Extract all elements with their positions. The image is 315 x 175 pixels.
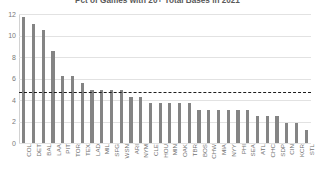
bar (246, 110, 249, 143)
x-tick-label: CHW (211, 144, 217, 174)
x-tick-label: NYM (143, 144, 149, 174)
x-tick-label-text: TOR (75, 144, 81, 157)
x-tick-label-text: STL (309, 144, 315, 155)
x-tick-label: DET (36, 144, 42, 174)
x-tick-label: CHC (270, 144, 276, 174)
x-tick-label-text: BAL (46, 144, 52, 156)
x-tick-label: PIT (65, 144, 71, 174)
x-tick-label: TEX (85, 144, 91, 174)
x-tick-label: MIL (104, 144, 110, 174)
bar-series (19, 14, 311, 143)
x-tick-label: COL (26, 144, 32, 174)
x-tick-label-text: DET (36, 144, 42, 156)
x-tick-label: BOS (202, 144, 208, 174)
x-tick-label-text: SFG (114, 144, 120, 157)
chart-title: Pct of Games with 20+ Total Bases in 202… (0, 0, 315, 5)
x-tick-label: SDP (280, 144, 286, 174)
bar (178, 103, 181, 143)
league-average-line (19, 92, 311, 93)
x-tick-label-text: CHW (211, 144, 217, 159)
x-tick-label-text: TEX (85, 144, 91, 156)
bar (149, 103, 152, 143)
x-tick-label-text: NYM (143, 144, 149, 158)
bar (266, 116, 269, 143)
x-tick-label-text: BOS (202, 144, 208, 157)
x-tick-label: ATL (260, 144, 266, 174)
x-tick-label: KCR (299, 144, 305, 174)
bar (61, 76, 64, 143)
x-tick-label: HOU (163, 144, 169, 174)
bar (285, 123, 288, 143)
bar (110, 90, 113, 143)
x-tick-label-text: CIN (289, 144, 295, 155)
x-tick-label: OAK (182, 144, 188, 174)
bar (100, 90, 103, 143)
x-tick-label-text: MIA (221, 144, 227, 155)
x-tick-label: TBR (192, 144, 198, 174)
x-tick-label: MIN (172, 144, 178, 174)
y-tick-label: 4 (2, 97, 16, 104)
x-tick-label-text: WSN (124, 144, 130, 158)
x-tick-label-text: TBR (192, 144, 198, 156)
x-tick-label: PHI (241, 144, 247, 174)
y-tick-label: 6 (2, 75, 16, 82)
x-tick-label-text: CLE (153, 144, 159, 156)
bar (256, 116, 259, 143)
x-tick-label-text: LAD (95, 144, 101, 156)
bar (129, 97, 132, 143)
x-tick-label-text: CHC (270, 144, 276, 157)
bar (120, 90, 123, 143)
bar (159, 103, 162, 143)
y-tick-label: 0 (2, 140, 16, 147)
x-tick-label-text: SDP (280, 144, 286, 157)
bar (22, 17, 25, 143)
x-tick-label-text: ARI (134, 144, 140, 154)
plot-area (19, 14, 311, 143)
y-tick-label: 8 (2, 54, 16, 61)
y-tick-label: 2 (2, 118, 16, 125)
bar (71, 76, 74, 143)
x-tick-label-text: PIT (65, 144, 71, 154)
y-tick-label: 12 (2, 11, 16, 18)
bar (32, 24, 35, 143)
x-tick-label: LAA (56, 144, 62, 174)
x-tick-label: STL (309, 144, 315, 174)
x-tick-label: CIN (289, 144, 295, 174)
bar (90, 90, 93, 143)
bar (236, 110, 239, 143)
x-tick-label: LAD (95, 144, 101, 174)
bar (139, 97, 142, 143)
bar (197, 110, 200, 143)
x-tick-label: SEA (250, 144, 256, 174)
x-tick-label: WSN (124, 144, 130, 174)
x-tick-label: NYY (231, 144, 237, 174)
x-axis-labels: COLDETBALLAAPITTORTEXLADMILSFGWSNARINYMC… (19, 144, 311, 175)
bar (305, 130, 308, 143)
x-tick-label-text: LAA (56, 144, 62, 156)
x-tick-label: MIA (221, 144, 227, 174)
x-tick-label: BAL (46, 144, 52, 174)
x-tick-label: SFG (114, 144, 120, 174)
y-tick-label: 10 (2, 32, 16, 39)
x-tick-label-text: HOU (163, 144, 169, 158)
x-tick-label-text: OAK (182, 144, 188, 157)
bar (217, 110, 220, 143)
bar (188, 103, 191, 143)
x-tick-label-text: MIN (172, 144, 178, 155)
x-tick-label-text: KCR (299, 144, 305, 157)
bar (42, 30, 45, 143)
x-tick-label-text: ATL (260, 144, 266, 155)
x-tick-label-text: COL (26, 144, 32, 157)
x-tick-label: ARI (134, 144, 140, 174)
x-tick-label: TOR (75, 144, 81, 174)
bar (51, 51, 54, 143)
bar (207, 110, 210, 143)
x-tick-label: CLE (153, 144, 159, 174)
bar (227, 110, 230, 143)
bar (275, 116, 278, 143)
x-tick-label-text: PHI (241, 144, 247, 154)
bar (295, 123, 298, 143)
bar (168, 103, 171, 143)
x-tick-label-text: MIL (104, 144, 110, 154)
x-tick-label-text: SEA (250, 144, 256, 156)
